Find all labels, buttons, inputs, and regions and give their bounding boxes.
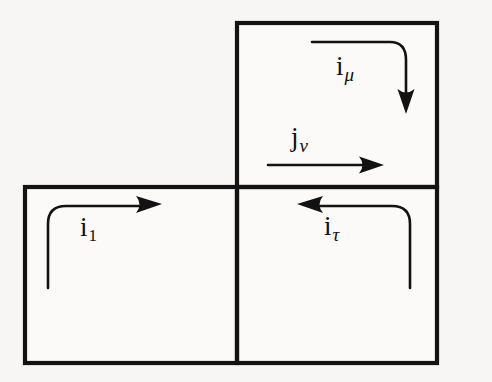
label-i-tau: iτ [324,213,339,244]
label-i-one: i1 [80,214,97,244]
label-i-mu: iμ [336,53,354,84]
label-i-one-base: i [80,212,88,242]
label-j-nu-base: j [291,122,299,152]
label-i-tau-subscript: τ [332,224,340,245]
bottom-left-cell-face [25,187,237,363]
label-i-mu-subscript: μ [344,64,355,85]
label-j-nu-subscript: ν [299,135,308,156]
label-i-tau-base: i [324,211,332,241]
figure-canvas: iμ jν i1 iτ [0,0,492,382]
label-i-one-subscript: 1 [88,226,98,245]
diagram-svg [0,0,492,382]
label-i-mu-base: i [336,51,344,81]
label-j-nu: jν [291,124,308,155]
